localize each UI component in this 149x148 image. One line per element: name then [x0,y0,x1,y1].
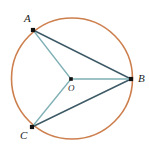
point-label-c: C [20,130,27,141]
geometry-canvas [0,0,149,148]
circle-geometry-figure: A B C O [0,0,149,148]
point-label-o: O [68,84,75,93]
point-label-a: A [24,13,31,24]
segment-OC [32,79,71,127]
point-marker-B [129,77,133,81]
point-marker-A [31,28,35,32]
point-label-b: B [138,73,145,84]
point-marker-C [30,125,34,129]
point-marker-O [69,77,73,81]
segment-AO [33,30,71,79]
